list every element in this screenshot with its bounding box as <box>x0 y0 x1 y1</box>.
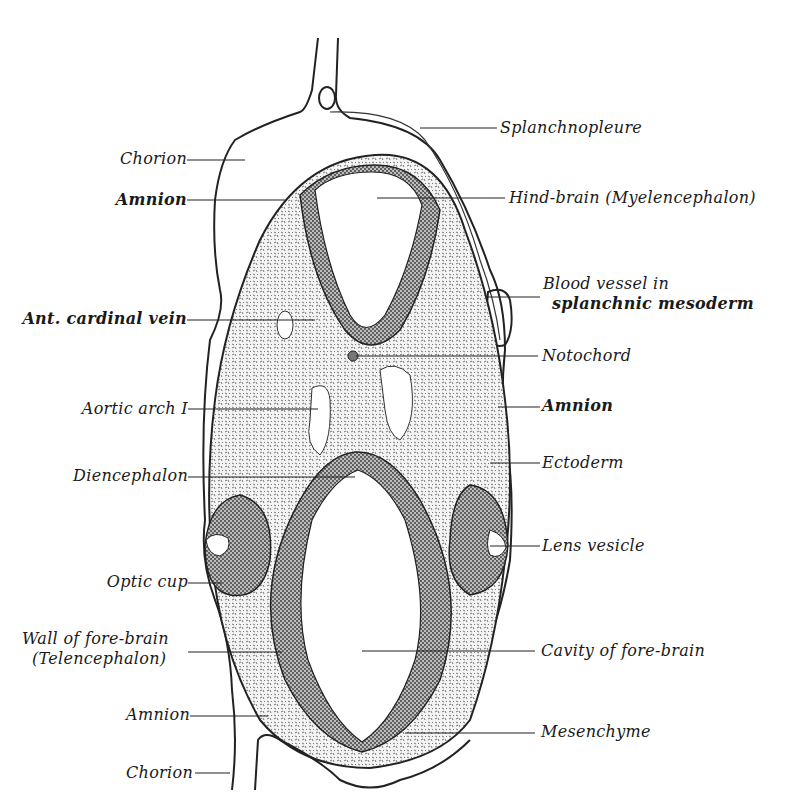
stalk-vessel <box>319 87 335 109</box>
label-splanchnic-mesoderm: splanchnic mesoderm <box>552 295 754 313</box>
label-amnion-bottom: Amnion <box>126 706 190 724</box>
label-blood-vessel: Blood vessel in <box>543 275 669 293</box>
label-mesenchyme: Mesenchyme <box>541 723 651 741</box>
label-splanchnopleure: Splanchnopleure <box>500 119 642 137</box>
label-notochord: Notochord <box>542 347 631 365</box>
label-diencephalon: Diencephalon <box>73 467 188 485</box>
label-optic-cup: Optic cup <box>107 573 188 591</box>
label-lens-vesicle: Lens vesicle <box>542 537 645 555</box>
ant-cardinal-vein-vessel <box>277 311 293 339</box>
label-cavity-fore-brain: Cavity of fore-brain <box>541 642 705 660</box>
label-chorion-bottom: Chorion <box>126 764 193 782</box>
label-chorion-top: Chorion <box>120 150 187 168</box>
label-wall-fore-brain: Wall of fore-brain <box>22 630 169 648</box>
label-amnion-top: Amnion <box>116 191 187 209</box>
label-hind-brain: Hind-brain (Myelencephalon) <box>509 189 756 207</box>
label-ant-cardinal-vein: Ant. cardinal vein <box>22 310 187 328</box>
label-amnion-right: Amnion <box>542 397 613 415</box>
label-aortic-arch: Aortic arch I <box>82 400 188 418</box>
label-telencephalon: (Telencephalon) <box>32 650 166 668</box>
label-ectoderm: Ectoderm <box>542 454 624 472</box>
